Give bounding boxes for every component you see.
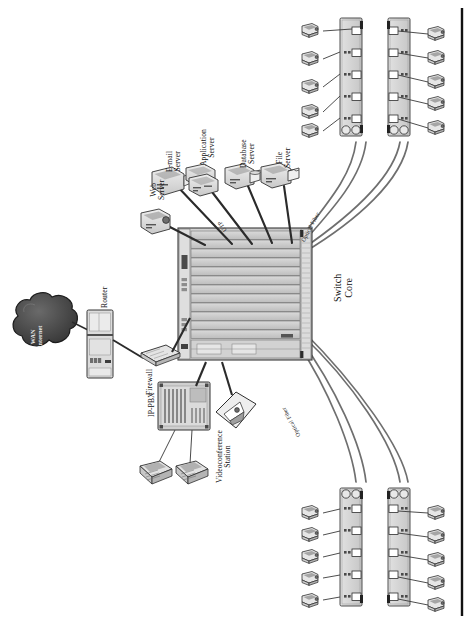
label-wan-cloud: WAN Internet (30, 326, 43, 348)
workstation-icon (302, 80, 318, 94)
wan-cloud-icon (13, 293, 77, 346)
workstation-icon (428, 75, 444, 89)
topology-artwork (0, 0, 474, 624)
label-videoconference-station: Videoconference Station (216, 430, 232, 483)
edge-switch-bottom-left[interactable] (340, 488, 363, 606)
videoconference-station-icon[interactable] (216, 392, 256, 428)
label-ip-pbx: IP-PBX (148, 392, 156, 417)
workstation-icon (428, 576, 444, 590)
edge-switch-top-left[interactable] (340, 18, 363, 136)
label-email-server: E-mail Server (166, 151, 182, 172)
workstation-icon (302, 594, 318, 608)
workstation-icon (302, 550, 318, 564)
workstation-icon (302, 506, 318, 520)
router-firewall-link (113, 340, 143, 358)
network-diagram-canvas: Web Server E-mail Server Application Ser… (0, 0, 474, 624)
label-web-server: Web Server (150, 180, 166, 200)
workstation-icon (428, 27, 444, 41)
workstation-icon (302, 572, 318, 586)
label-database-server: Database Server (240, 139, 256, 168)
workstation-icon (428, 121, 444, 135)
router-icon[interactable] (87, 310, 113, 378)
application-server-icon[interactable] (186, 164, 218, 196)
bottom-right-workstations (428, 506, 444, 612)
label-router: Router (101, 287, 109, 308)
workstation-icon (428, 530, 444, 544)
core-line-card-slots (191, 231, 300, 339)
switch-core-chassis[interactable] (178, 228, 312, 360)
core-module-bays (191, 340, 300, 358)
label-switch-core: Switch Core (333, 274, 355, 302)
workstation-icon (302, 528, 318, 542)
workstation-icon (428, 97, 444, 111)
workstation-icon (302, 24, 318, 38)
label-application-server: Application Server (200, 129, 216, 166)
videoconference-core-link (222, 362, 232, 395)
label-file-server: File Server (276, 148, 292, 168)
bottom-left-workstation-links (323, 509, 340, 600)
fiber-uplink-links (296, 142, 408, 482)
workstation-icon (302, 105, 318, 119)
bottom-left-workstations (302, 506, 318, 608)
workstation-icon (428, 506, 444, 520)
ip-phone-icon-2[interactable] (176, 461, 208, 484)
workstation-icon (302, 52, 318, 66)
workstation-icon (428, 553, 444, 567)
ip-phone-icon-1[interactable] (140, 461, 172, 484)
ip-phone-links (158, 430, 192, 464)
workstation-icon (302, 124, 318, 138)
top-right-workstations (428, 27, 444, 135)
top-left-workstations (302, 24, 318, 138)
web-server-icon[interactable] (141, 209, 170, 234)
ip-pbx-icon[interactable] (158, 382, 210, 430)
workstation-icon (428, 598, 444, 612)
workstation-icon (428, 51, 444, 65)
edge-switch-bottom-right[interactable] (387, 488, 410, 606)
